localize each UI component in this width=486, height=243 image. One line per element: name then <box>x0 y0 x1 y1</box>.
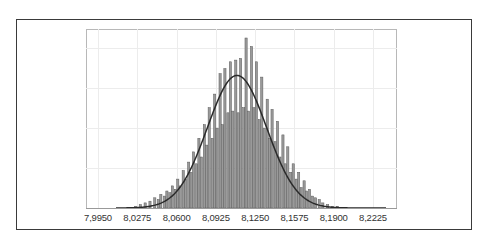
histogram-bar <box>263 128 265 208</box>
x-tick-label: 8,1575 <box>280 212 308 223</box>
histogram-bar <box>221 125 223 208</box>
histogram-bar <box>314 198 316 208</box>
x-tick-label: 8,0925 <box>202 212 230 223</box>
histogram-bar <box>227 113 229 208</box>
histogram-bar <box>261 77 263 208</box>
histogram-bar <box>185 179 187 208</box>
histogram-bar <box>295 179 297 208</box>
histogram-bar <box>160 194 162 208</box>
histogram-bar <box>300 188 302 208</box>
histogram-bar <box>250 47 252 209</box>
histogram-bar <box>169 193 171 208</box>
histogram-bar <box>235 60 237 208</box>
histogram-bar <box>276 121 278 208</box>
histogram-bar <box>303 181 305 208</box>
histogram-bar <box>177 179 179 208</box>
histogram-bar <box>179 186 181 208</box>
histogram-chart <box>86 29 397 209</box>
histogram-bar <box>216 128 218 208</box>
x-tick-label: 8,1900 <box>320 212 348 223</box>
x-tick-label: 7,9950 <box>84 212 112 223</box>
histogram-bar <box>269 138 271 208</box>
histogram-bar <box>253 108 255 208</box>
histogram-bar <box>266 99 268 208</box>
histogram-bar <box>182 171 184 208</box>
histogram-bar <box>237 113 239 208</box>
histogram-bar <box>298 172 300 208</box>
x-tick-label: 8,2225 <box>359 212 387 223</box>
histogram-bar <box>211 138 213 208</box>
x-tick-label: 8,1250 <box>241 212 269 223</box>
histogram-bar <box>255 62 257 208</box>
histogram-bar <box>282 135 284 208</box>
x-tick-label: 8,0275 <box>123 212 151 223</box>
histogram-bar <box>154 198 156 208</box>
histogram-bar <box>232 111 234 208</box>
histogram-bar <box>195 164 197 208</box>
histogram-bar <box>258 120 260 208</box>
histogram-bar <box>243 108 245 208</box>
histogram-bar <box>308 189 310 208</box>
histogram-bar <box>206 145 208 208</box>
x-tick-label: 8,0600 <box>163 212 191 223</box>
histogram-bar <box>188 162 190 208</box>
histogram-bar <box>290 172 292 208</box>
histogram-bar <box>229 62 231 208</box>
histogram-bar <box>245 38 247 208</box>
histogram-bar <box>318 200 320 209</box>
histogram-bars <box>134 38 338 208</box>
histogram-bar <box>190 172 192 208</box>
histogram-bar <box>240 58 242 208</box>
histogram-bar <box>200 157 202 208</box>
histogram-bar <box>271 109 273 208</box>
histogram-bar <box>247 111 249 208</box>
histogram-bar <box>224 69 226 208</box>
